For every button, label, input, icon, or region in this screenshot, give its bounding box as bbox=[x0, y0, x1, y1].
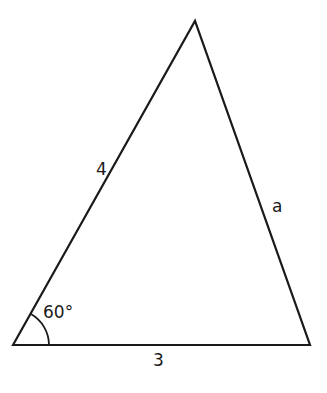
angle-label: 60° bbox=[43, 302, 73, 322]
base-label: 3 bbox=[153, 350, 164, 370]
side-label-left: 4 bbox=[96, 159, 107, 179]
side-label-right: a bbox=[272, 196, 282, 216]
triangle bbox=[13, 21, 310, 345]
triangle-diagram: 4 a 3 60° bbox=[0, 0, 327, 393]
